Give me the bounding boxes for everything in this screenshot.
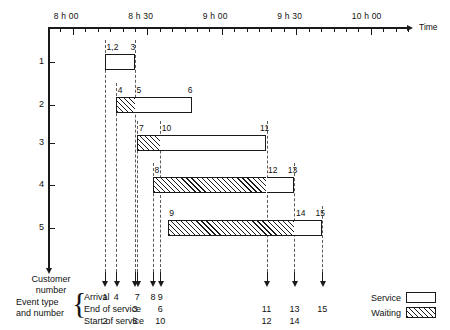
customer-tick-label: 3 — [32, 137, 44, 147]
time-axis-label: Time — [419, 22, 438, 32]
time-tick-minor — [259, 28, 260, 32]
bar-event-label: 11 — [257, 123, 271, 133]
time-tick-label: 8 h 00 — [54, 11, 79, 21]
bar-event-label: 8 — [154, 165, 159, 175]
time-tick-minor — [209, 28, 210, 32]
time-tick-minor — [358, 28, 359, 32]
bar-event-label: 9 — [169, 208, 174, 218]
bar-waiting-customer-3 — [137, 135, 160, 151]
event-arrow-head — [102, 281, 108, 287]
legend-swatch-service — [406, 292, 436, 303]
event-table-caption-line2: and number — [16, 308, 64, 318]
time-tick-minor — [60, 28, 61, 32]
time-tick-minor — [309, 28, 310, 32]
customer-tick — [49, 143, 55, 144]
time-tick-major — [73, 28, 74, 35]
bar-waiting-customer-2 — [116, 97, 135, 113]
customer-tick-label: 2 — [32, 99, 44, 109]
event-number-arrival: 7 — [130, 292, 144, 302]
event-arrow-head — [320, 281, 326, 287]
event-table-caption-line1: Event type — [16, 297, 59, 307]
time-tick-minor — [123, 28, 124, 32]
event-number-start-of-service: 5 — [128, 316, 142, 326]
customer-axis-line — [48, 27, 50, 270]
time-tick-minor — [98, 28, 99, 32]
bar-event-label: 1,2 — [107, 42, 119, 52]
customer-tick-label: 5 — [32, 222, 44, 232]
bar-service-customer-4 — [267, 177, 295, 193]
event-number-start-of-service: 10 — [153, 316, 167, 326]
event-arrow-head — [135, 281, 141, 287]
bar-event-label: 6 — [183, 85, 197, 95]
event-number-arrival: 9 — [153, 292, 167, 302]
time-tick-minor — [334, 28, 335, 32]
bar-event-label: 7 — [139, 123, 144, 133]
bar-service-customer-2 — [135, 97, 192, 113]
customer-tick — [49, 228, 55, 229]
customer-tick-label: 4 — [32, 179, 44, 189]
bar-event-label: 14 — [296, 208, 305, 218]
customer-tick — [49, 185, 55, 186]
timing-diagram-canvas: Time 8 h 008 h 309 h 009 h 3010 h 00 123… — [0, 0, 450, 330]
legend-label-service: Service — [353, 293, 401, 303]
time-tick-label: 9 h 30 — [277, 11, 302, 21]
customer-tick — [49, 62, 55, 63]
event-arrow-head — [264, 281, 270, 287]
event-dropline — [267, 121, 268, 272]
event-dropline — [135, 40, 136, 272]
time-tick-minor — [135, 28, 136, 32]
time-tick-major — [371, 28, 372, 35]
time-tick-minor — [396, 28, 397, 32]
time-tick-label: 8 h 30 — [128, 11, 153, 21]
time-tick-minor — [172, 28, 173, 32]
bar-waiting-customer-4 — [153, 177, 267, 193]
time-tick-minor — [110, 28, 111, 32]
customer-tick — [49, 105, 55, 106]
time-tick-minor — [346, 28, 347, 32]
bar-event-label: 4 — [118, 85, 123, 95]
time-tick-major — [222, 28, 223, 35]
time-tick-minor — [383, 28, 384, 32]
event-number-start-of-service: 14 — [287, 316, 301, 326]
time-tick-minor — [284, 28, 285, 32]
bar-event-label: 10 — [162, 123, 171, 133]
bar-event-label: 5 — [136, 85, 141, 95]
time-tick-major — [147, 28, 148, 35]
time-tick-label: 9 h 00 — [203, 11, 228, 21]
event-number-end-of-service: 15 — [315, 304, 329, 314]
event-number-end-of-service: 6 — [153, 304, 167, 314]
bar-event-label: 3 — [126, 42, 140, 52]
time-axis-line — [48, 27, 408, 29]
event-number-start-of-service: 12 — [259, 316, 273, 326]
event-arrow-head — [150, 281, 156, 287]
time-tick-minor — [185, 28, 186, 32]
legend-label-waiting: Waiting — [353, 308, 401, 318]
bar-service-customer-5 — [294, 220, 322, 236]
time-tick-minor — [234, 28, 235, 32]
event-number-end-of-service: 13 — [287, 304, 301, 314]
bar-event-label: 12 — [268, 165, 277, 175]
event-number-end-of-service: 11 — [259, 304, 273, 314]
event-arrow-head — [158, 281, 164, 287]
time-tick-minor — [197, 28, 198, 32]
bar-service-customer-3 — [160, 135, 266, 151]
event-number-arrival: 4 — [109, 292, 123, 302]
time-tick-minor — [271, 28, 272, 32]
event-dropline — [105, 40, 106, 272]
customer-axis-caption-line1: Customer — [16, 274, 86, 284]
bar-event-label: 13 — [285, 165, 299, 175]
customer-tick-label: 1 — [32, 56, 44, 66]
event-arrow-head — [114, 281, 120, 287]
bar-waiting-customer-5 — [168, 220, 295, 236]
time-tick-minor — [321, 28, 322, 32]
bar-event-label: 15 — [313, 208, 327, 218]
time-tick-minor — [408, 28, 409, 32]
time-tick-minor — [85, 28, 86, 32]
time-tick-major — [296, 28, 297, 35]
time-tick-label: 10 h 00 — [352, 11, 382, 21]
bar-service-customer-1 — [105, 54, 135, 70]
event-arrow-head — [292, 281, 298, 287]
event-number-end-of-service: 3 — [128, 304, 142, 314]
time-tick-minor — [160, 28, 161, 32]
event-number-start-of-service: 2 — [98, 316, 112, 326]
